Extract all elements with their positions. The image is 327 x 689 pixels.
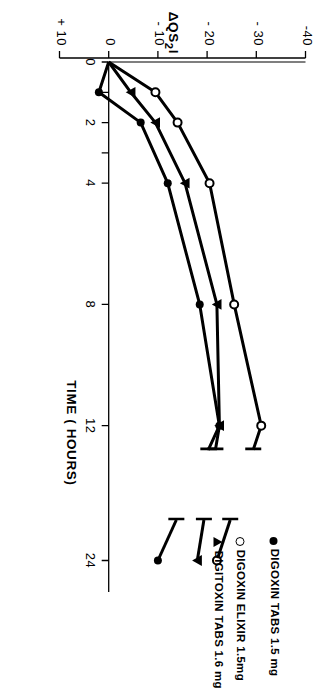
legend-item-2: DIGOXIN ELIXIR 1.5mg [234, 537, 246, 681]
legend-item-label: DIGOXIN ELIXIR 1.5mg [234, 550, 246, 681]
y-tick-label--30: - 30 [250, 0, 265, 46]
y-axis-title-subscript: 2 [162, 43, 174, 50]
legend-open-circle-icon [235, 537, 244, 546]
legend-item-label: DIGOXIN TABS 1.5 mg [268, 549, 280, 677]
data-series-group [94, 62, 264, 566]
x-tick-label-24: 24 [82, 545, 97, 575]
series-1 [108, 62, 223, 566]
y-axis-title: ΔQS2I [162, 2, 180, 54]
series-2 [108, 62, 265, 564]
y-axis-title-tail: I [165, 50, 180, 54]
y-axis-title-main: ΔQS [165, 12, 180, 43]
x-tick-label-4: 4 [82, 168, 97, 198]
x-axis-title: TIME ( HOURS) [63, 380, 78, 485]
y-tick-label-0: 0 [102, 0, 117, 46]
x-tick-label-0: 0 [82, 47, 97, 77]
y-tick-label--20: - 20 [201, 0, 216, 46]
y-tick-label--40: -40 [299, 0, 314, 46]
x-tick-label-2: 2 [82, 108, 97, 138]
legend-filled-triangle-icon [213, 537, 222, 547]
x-tick-label-8: 8 [82, 289, 97, 319]
legend-filled-circle-icon [269, 537, 277, 545]
y-tick-label-10: + 10 [53, 0, 68, 46]
legend-item-1: DIGITOXIN TABS 1.6 mg [212, 537, 224, 689]
legend-item-3: DIGOXIN TABS 1.5 mg [268, 537, 280, 677]
series-3 [94, 62, 223, 564]
legend-item-label: DIGITOXIN TABS 1.6 mg [212, 551, 224, 689]
x-tick-label-12: 12 [82, 411, 97, 441]
